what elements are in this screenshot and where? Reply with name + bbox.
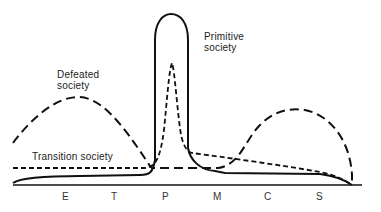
x-tick-c: C [264,191,271,202]
x-tick-t: T [111,191,117,202]
x-tick-s: S [316,191,323,202]
defeated-label-line1: Defeated [57,69,99,80]
primitive-label-line1: Primitive [204,31,244,42]
defeated-society-label: Defeated society [57,69,99,91]
primitive-society-label: Primitive society [204,31,244,53]
x-tick-m: M [213,191,221,202]
defeated-label-line2: society [57,80,99,91]
x-tick-e: E [62,191,69,202]
transition-society-label: Transition society [32,151,113,162]
x-tick-p: P [162,191,169,202]
primitive-label-line2: society [204,42,244,53]
society-curves-diagram [0,0,381,212]
